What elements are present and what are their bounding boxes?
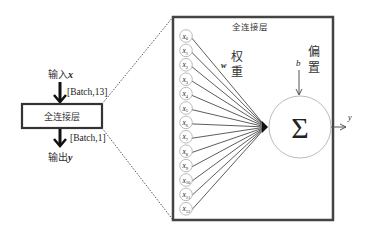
fc-layer-label: 全连接层 <box>44 111 80 122</box>
detail-title: 全连接层 <box>232 22 268 32</box>
zoom-line-top <box>102 17 173 104</box>
fully-connected-diagram: 输入x [Batch,13] 全连接层 [Batch,1] 输出y 全连接层 x… <box>0 0 371 234</box>
weight-label-1: 权 <box>231 50 243 64</box>
bias-label-1: 偏 <box>308 44 320 59</box>
input-node: x0 <box>180 30 193 43</box>
input-node: x9 <box>180 159 193 172</box>
input-shape: [Batch,13] <box>67 87 107 97</box>
input-node: x3 <box>180 73 193 86</box>
input-node: x8 <box>180 145 193 158</box>
sigma-symbol: Σ <box>291 111 308 144</box>
weight-label-2: 重 <box>231 65 243 79</box>
detail-panel: 全连接层 x0x1x2x3x4x5x6x7x8x9x10x11x12 w 权 重… <box>173 17 333 220</box>
output-y-var: y <box>347 113 352 122</box>
input-node: x10 <box>180 174 193 187</box>
bias-label-2: 置 <box>308 61 320 75</box>
zoom-line-bottom <box>102 128 173 220</box>
input-label: 输入x <box>48 68 73 80</box>
input-node: x5 <box>180 102 193 115</box>
input-node: x6 <box>180 116 193 129</box>
bias-var: b <box>296 58 301 68</box>
input-node: x11 <box>180 188 193 201</box>
output-shape: [Batch,1] <box>70 133 106 143</box>
input-node: x12 <box>180 203 193 216</box>
input-node: x2 <box>180 59 193 72</box>
weight-var: w <box>221 61 227 70</box>
input-node: x4 <box>180 87 193 100</box>
input-node: x7 <box>180 131 193 144</box>
overview-panel: 输入x [Batch,13] 全连接层 [Batch,1] 输出y <box>22 68 107 163</box>
input-node: x1 <box>180 44 193 57</box>
output-label: 输出y <box>48 151 73 163</box>
